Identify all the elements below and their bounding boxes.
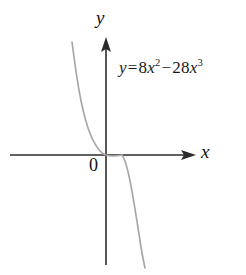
graph-figure: y x 0 y=8x2−28x3 — [0, 0, 246, 275]
equation-annotation: y=8x2−28x3 — [119, 59, 203, 76]
equation-equals: = — [127, 58, 139, 77]
axis-label-y: y — [96, 8, 104, 27]
equation-lhs: y — [119, 58, 127, 77]
plot-area — [0, 0, 246, 275]
equation-term2-exponent: 3 — [197, 57, 202, 68]
axis-label-x: x — [201, 142, 209, 161]
equation-operator: − — [160, 58, 172, 77]
equation-term1-coefficient: 8 — [139, 58, 148, 77]
equation-term1-variable: x — [147, 58, 155, 77]
origin-label: 0 — [89, 156, 98, 174]
equation-term2-coefficient: 28 — [172, 58, 189, 77]
